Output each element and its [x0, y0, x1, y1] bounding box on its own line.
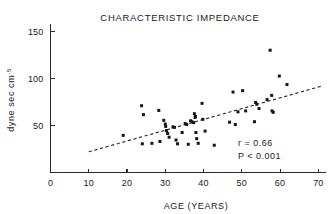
data-point: [255, 103, 258, 106]
y-axis-label-text: dyne sec cm: [6, 75, 16, 132]
chart-title-group: CHARACTERISTIC IMPEDANCE: [100, 12, 259, 23]
x-tick-label: 20: [122, 178, 132, 188]
data-point: [234, 123, 237, 126]
data-point: [164, 125, 167, 128]
scatter-plot: CHARACTERISTIC IMPEDANCE 010203040506070…: [0, 0, 336, 214]
data-point: [181, 131, 184, 134]
data-point: [168, 136, 171, 139]
data-point: [201, 118, 204, 121]
data-point: [194, 115, 197, 118]
data-point: [162, 119, 165, 122]
data-point: [213, 144, 216, 147]
data-point: [122, 134, 125, 137]
data-point: [197, 142, 200, 145]
data-point: [285, 83, 288, 86]
y-tick-label: 100: [28, 74, 44, 84]
data-point: [278, 75, 281, 78]
data-point: [228, 121, 231, 124]
data-point: [165, 129, 168, 132]
regression-line-group: [89, 86, 322, 152]
x-tick-label: 0: [48, 178, 53, 188]
data-point: [241, 89, 244, 92]
data-point: [141, 142, 144, 145]
chart-figure: CHARACTERISTIC IMPEDANCE 010203040506070…: [0, 0, 336, 214]
data-point: [166, 132, 169, 135]
data-point: [173, 126, 176, 129]
x-tick-label: 10: [84, 178, 94, 188]
x-axis-label-group: AGE (YEARS): [164, 201, 229, 211]
data-point: [232, 91, 235, 94]
data-point: [270, 94, 273, 97]
data-point: [272, 111, 275, 114]
data-point: [258, 107, 261, 110]
y-axis-label: dyne sec cm-5: [6, 68, 16, 132]
data-point: [150, 142, 153, 145]
y-axis-label-group: dyne sec cm-5: [6, 68, 16, 132]
x-tick-label: 70: [313, 178, 323, 188]
data-point: [142, 113, 145, 116]
x-tick-label: 50: [237, 178, 247, 188]
x-tick-label: 60: [275, 178, 285, 188]
data-point: [193, 112, 196, 115]
x-axis-label: AGE (YEARS): [164, 201, 229, 211]
data-point: [192, 121, 195, 124]
x-tick-label: 30: [160, 178, 170, 188]
p-value-annotation: P < 0.001: [238, 151, 281, 161]
data-point: [157, 109, 160, 112]
data-point: [185, 123, 188, 126]
data-point: [140, 104, 143, 107]
data-point: [253, 120, 256, 123]
data-point: [158, 140, 161, 143]
data-point: [187, 143, 190, 146]
statistics-annotation-group: r = 0.66 P < 0.001: [238, 138, 281, 161]
x-axis-ticks: 010203040506070: [48, 169, 324, 188]
data-point: [195, 137, 198, 140]
data-point: [201, 102, 204, 105]
data-point: [236, 110, 239, 113]
x-tick-label: 40: [198, 178, 208, 188]
data-point: [176, 142, 179, 145]
correlation-annotation: r = 0.66: [238, 138, 273, 148]
data-point: [269, 49, 272, 52]
y-axis-label-exponent: -5: [6, 68, 12, 75]
data-point: [175, 139, 178, 142]
regression-line: [89, 86, 322, 152]
y-tick-label: 50: [33, 121, 43, 131]
data-point: [204, 130, 207, 133]
chart-title: CHARACTERISTIC IMPEDANCE: [100, 12, 259, 23]
axes-group: [51, 24, 327, 173]
data-point: [194, 131, 197, 134]
data-point: [266, 98, 269, 101]
data-point: [244, 109, 247, 112]
data-points-group: [122, 49, 289, 147]
y-tick-label: 150: [28, 27, 44, 37]
